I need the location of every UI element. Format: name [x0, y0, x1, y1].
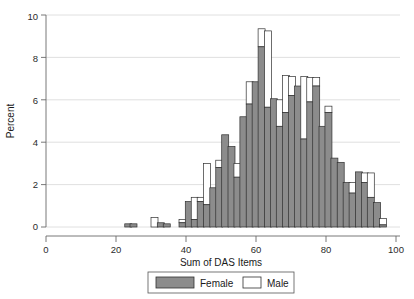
bar-female — [163, 224, 170, 227]
y-axis-title: Percent — [5, 104, 16, 139]
bar-female — [204, 205, 211, 227]
legend-label-female: Female — [200, 278, 234, 289]
histogram-chart: 0 2 4 6 8 10 0 20 40 60 80 100 Sum of DA… — [0, 0, 414, 299]
bar-male — [197, 197, 204, 201]
x-tick-label-60: 60 — [251, 244, 262, 255]
bar-male — [367, 173, 374, 197]
x-tick-label-100: 100 — [388, 244, 404, 255]
bar-male — [380, 219, 387, 225]
x-tick-label-0: 0 — [43, 244, 48, 255]
legend-swatch-female — [156, 277, 194, 288]
x-tick-label-20: 20 — [111, 244, 122, 255]
bar-female — [222, 135, 229, 227]
bar-female — [276, 126, 283, 227]
legend-label-male: Male — [267, 278, 289, 289]
bar-female — [130, 224, 137, 227]
chart-canvas: 0 2 4 6 8 10 0 20 40 60 80 100 Sum of DA… — [0, 0, 414, 299]
bar-male — [204, 163, 211, 204]
bar-male — [313, 78, 320, 86]
bar-male — [151, 217, 158, 227]
y-tick-label-0: 0 — [33, 221, 38, 232]
x-axis-title: Sum of DAS Items — [180, 257, 262, 268]
bar-male — [179, 220, 186, 223]
x-tick-label-80: 80 — [321, 244, 332, 255]
bar-male — [325, 106, 332, 112]
x-tick-label-40: 40 — [181, 244, 192, 255]
y-tick-label-8: 8 — [33, 53, 38, 64]
bar-male — [264, 31, 271, 107]
chart-background — [0, 0, 414, 299]
y-tick-label-4: 4 — [33, 137, 38, 148]
bar-female — [179, 223, 186, 227]
bar-female — [240, 117, 247, 227]
legend-swatch-male — [243, 277, 261, 288]
bar-female — [367, 197, 374, 227]
bar-female — [331, 158, 338, 227]
legend: Female Male — [148, 272, 294, 293]
y-tick-label-2: 2 — [33, 179, 38, 190]
y-tick-label-6: 6 — [33, 95, 38, 106]
bar-female — [380, 225, 387, 227]
y-tick-label-10: 10 — [27, 11, 38, 22]
bar-male — [276, 100, 283, 127]
bar-female — [197, 202, 204, 227]
